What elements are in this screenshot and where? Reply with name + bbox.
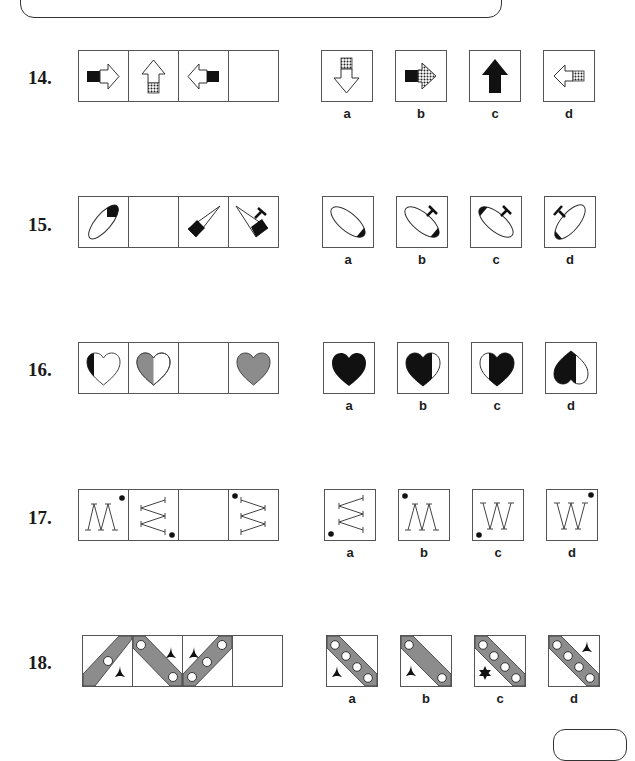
option-14c[interactable] [469,50,521,102]
heart-icon [79,343,128,393]
option-17c[interactable] [472,489,524,541]
option-label: d [547,545,597,560]
option-label: b [399,545,449,560]
option-16c[interactable] [471,342,523,394]
question-number: 14. [28,67,52,89]
option-label: c [475,691,525,706]
w-zigzag-icon [547,490,597,540]
option-16b[interactable] [397,342,449,394]
heart-icon [129,343,178,393]
seq-blank-cell[interactable] [179,343,229,393]
seq-cell [179,197,229,247]
option-14d[interactable] [543,50,595,102]
arrow-down-icon [322,51,372,101]
seq-blank-cell[interactable] [233,636,282,686]
option-14a[interactable] [321,50,373,102]
arrow-up-icon [129,51,178,101]
seq-cell [229,490,278,540]
question-17-sequence [78,489,279,541]
band-falling-icon [327,636,377,686]
sideways-zigzag-icon [229,490,278,540]
sideways-zigzag-icon [129,490,178,540]
option-17a[interactable] [324,489,376,541]
option-label: d [546,398,596,413]
seq-cell [179,51,229,101]
option-18a[interactable] [326,635,378,687]
seq-cell [129,490,179,540]
band-rising-icon [183,636,232,686]
band-falling-icon [475,636,525,686]
seq-cell [229,343,278,393]
option-label: d [549,691,599,706]
sideways-zigzag-icon [325,490,375,540]
option-label: a [322,106,372,121]
seq-cell [83,636,133,686]
arrow-right-icon [79,51,128,101]
ellipse-icon [323,197,373,247]
heart-inverted-icon [546,343,596,393]
seq-cell [79,197,129,247]
option-14b[interactable] [395,50,447,102]
seq-blank-cell[interactable] [179,490,229,540]
band-falling-icon [549,636,599,686]
seq-cell [79,490,129,540]
option-16a[interactable] [323,342,375,394]
question-number: 18. [28,652,52,674]
question-number: 17. [28,507,52,529]
w-zigzag-icon [473,490,523,540]
seq-cell [133,636,183,686]
option-label: c [473,545,523,560]
band-falling-icon [133,636,182,686]
seq-cell [183,636,233,686]
question-number: 16. [28,359,52,381]
seq-blank-cell[interactable] [129,197,179,247]
option-label: c [470,106,520,121]
option-label: a [324,398,374,413]
seq-cell [79,51,129,101]
option-18b[interactable] [400,635,452,687]
heart-icon [472,343,522,393]
page-number-tab [553,729,627,761]
option-17d[interactable] [546,489,598,541]
ellipse-with-t-icon [545,197,595,247]
six-point-star-icon [479,666,491,680]
question-number: 15. [28,214,52,236]
heart-icon [398,343,448,393]
arrow-left-icon [544,51,594,101]
option-label: c [471,252,521,267]
option-label: b [397,252,447,267]
question-16-sequence [78,342,279,394]
m-zigzag-icon [79,490,128,540]
question-14-sequence [78,50,279,102]
option-15d[interactable] [544,196,596,248]
option-label: a [325,545,375,560]
option-15b[interactable] [396,196,448,248]
arrow-left-icon [179,51,228,101]
option-15a[interactable] [322,196,374,248]
band-falling-icon [401,636,451,686]
seq-cell [229,197,278,247]
band-rising-icon [83,636,132,686]
cone-icon [179,197,228,247]
option-label: b [396,106,446,121]
seq-blank-cell[interactable] [229,51,278,101]
option-18d[interactable] [548,635,600,687]
option-label: a [323,252,373,267]
option-label: d [545,252,595,267]
seq-cell [129,343,179,393]
ellipse-icon [79,197,128,247]
seq-cell [79,343,129,393]
option-15c[interactable] [470,196,522,248]
option-17b[interactable] [398,489,450,541]
seq-cell [129,51,179,101]
question-18-sequence [82,635,283,687]
option-label: a [327,691,377,706]
ellipse-with-t-icon [471,197,521,247]
option-label: b [401,691,451,706]
m-zigzag-icon [399,490,449,540]
option-label: c [472,398,522,413]
option-18c[interactable] [474,635,526,687]
option-16d[interactable] [545,342,597,394]
option-label: d [544,106,594,121]
heart-icon [229,343,278,393]
